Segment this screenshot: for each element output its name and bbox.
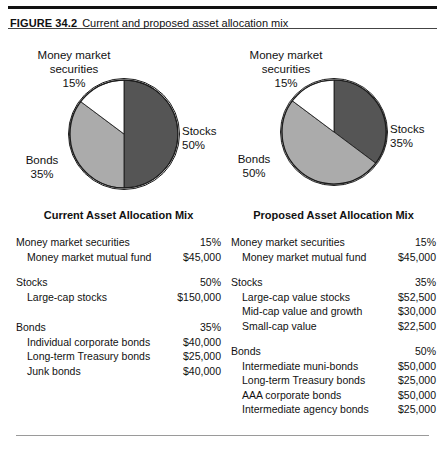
- money-market-label-line2: securities: [262, 63, 311, 75]
- row-name: Bonds: [231, 344, 267, 359]
- table-row: Intermediate muni-bonds $50,000: [231, 359, 436, 374]
- row-value: 50%: [415, 344, 436, 359]
- table-row: Junk bonds $40,000: [16, 364, 221, 379]
- pie-current-graphic: [68, 78, 180, 190]
- row-name: Large-cap stocks: [16, 290, 113, 305]
- row-value: $45,000: [183, 250, 221, 265]
- row-value: 15%: [200, 235, 221, 250]
- row-name: Junk bonds: [16, 364, 87, 379]
- table-group-stocks: Stocks 35% Large-cap value stocks $52,50…: [231, 275, 436, 333]
- bonds-label: Bonds: [238, 153, 271, 165]
- row-name: Long-term Treasury bonds: [231, 373, 371, 388]
- row-value: $50,000: [398, 359, 436, 374]
- stocks-label: Stocks: [390, 123, 425, 135]
- row-name: Intermediate muni-bonds: [231, 359, 364, 374]
- money-market-label-line2: securities: [50, 63, 99, 75]
- table-title-proposed: Proposed Asset Allocation Mix: [231, 209, 436, 221]
- table-group-bonds: Bonds 35% Individual corporate bonds $40…: [16, 320, 221, 378]
- pie-current-label-money-market: Money market securities 15%: [14, 48, 134, 90]
- row-name: AAA corporate bonds: [231, 388, 347, 403]
- table-group-money-market: Money market securities 15% Money market…: [16, 235, 221, 264]
- pie-proposed-graphic: [280, 78, 388, 186]
- table-row: Individual corporate bonds $40,000: [16, 335, 221, 350]
- table-group-money-market: Money market securities 15% Money market…: [231, 235, 436, 264]
- row-name: Individual corporate bonds: [16, 335, 156, 350]
- table-row: Large-cap value stocks $52,500: [231, 290, 436, 305]
- money-market-label-line1: Money market: [38, 49, 111, 61]
- table-row: Long-term Treasury bonds $25,000: [16, 349, 221, 364]
- pie-current-label-bonds: Bonds 35%: [16, 153, 68, 181]
- pie-proposed-label-bonds: Bonds 50%: [228, 152, 280, 180]
- money-market-pct: 15%: [226, 76, 346, 90]
- table-row: Bonds 50%: [231, 344, 436, 359]
- stocks-label: Stocks: [182, 125, 217, 137]
- row-value: $25,000: [398, 373, 436, 388]
- row-name: Stocks: [16, 275, 54, 290]
- table-row: Money market mutual fund $45,000: [16, 250, 221, 265]
- pie-chart-current: Money market securities 15% Stocks 50% B…: [0, 0, 222, 200]
- row-value: $25,000: [183, 349, 221, 364]
- pie-proposed-label-stocks: Stocks 35%: [390, 122, 442, 150]
- row-name: Money market mutual fund: [231, 250, 372, 265]
- pie-chart-proposed: Money market securities 15% Stocks 35% B…: [222, 0, 445, 200]
- table-row: Stocks 35%: [231, 275, 436, 290]
- row-name: Mid-cap value and growth: [231, 304, 368, 319]
- table-row: Stocks 50%: [16, 275, 221, 290]
- row-name: Bonds: [16, 320, 52, 335]
- table-row: Large-cap stocks $150,000: [16, 290, 221, 305]
- row-value: $30,000: [398, 304, 436, 319]
- row-name: Money market mutual fund: [16, 250, 157, 265]
- bonds-label: Bonds: [26, 154, 59, 166]
- table-row: Money market securities 15%: [231, 235, 436, 250]
- money-market-label-line1: Money market: [250, 49, 323, 61]
- table-row: Bonds 35%: [16, 320, 221, 335]
- row-value: $45,000: [398, 250, 436, 265]
- allocation-table-proposed: Proposed Asset Allocation Mix Money mark…: [231, 209, 436, 428]
- allocation-table-current: Current Asset Allocation Mix Money marke…: [16, 209, 221, 389]
- row-value: 35%: [415, 275, 436, 290]
- pie-proposed-label-money-market: Money market securities 15%: [226, 48, 346, 90]
- pie-proposed-svg: [281, 79, 387, 185]
- figure-bottom-rule: [16, 435, 429, 436]
- row-value: $50,000: [398, 388, 436, 403]
- table-row: Intermediate agency bonds $25,000: [231, 402, 436, 417]
- row-value: $22,500: [398, 319, 436, 334]
- table-group-bonds: Bonds 50% Intermediate muni-bonds $50,00…: [231, 344, 436, 417]
- bonds-pct: 50%: [228, 166, 280, 180]
- row-value: $52,500: [398, 290, 436, 305]
- money-market-pct: 15%: [14, 76, 134, 90]
- table-row: Mid-cap value and growth $30,000: [231, 304, 436, 319]
- table-group-stocks: Stocks 50% Large-cap stocks $150,000: [16, 275, 221, 304]
- table-row: Money market mutual fund $45,000: [231, 250, 436, 265]
- row-name: Large-cap value stocks: [231, 290, 356, 305]
- pie-slice-stocks: [124, 80, 178, 188]
- row-value: 50%: [200, 275, 221, 290]
- row-value: $25,000: [398, 402, 436, 417]
- row-value: 15%: [415, 235, 436, 250]
- row-name: Money market securities: [231, 235, 351, 250]
- row-name: Small-cap value: [231, 319, 323, 334]
- pie-current-svg: [69, 79, 179, 189]
- row-name: Stocks: [231, 275, 269, 290]
- row-value: $40,000: [183, 364, 221, 379]
- row-name: Money market securities: [16, 235, 136, 250]
- table-title-current: Current Asset Allocation Mix: [16, 209, 221, 221]
- row-name: Intermediate agency bonds: [231, 402, 375, 417]
- table-row: AAA corporate bonds $50,000: [231, 388, 436, 403]
- row-value: $40,000: [183, 335, 221, 350]
- table-row: Small-cap value $22,500: [231, 319, 436, 334]
- row-name: Long-term Treasury bonds: [16, 349, 156, 364]
- table-row: Money market securities 15%: [16, 235, 221, 250]
- bonds-pct: 35%: [16, 167, 68, 181]
- row-value: $150,000: [177, 290, 221, 305]
- row-value: 35%: [200, 320, 221, 335]
- table-row: Long-term Treasury bonds $25,000: [231, 373, 436, 388]
- stocks-pct: 35%: [390, 136, 442, 150]
